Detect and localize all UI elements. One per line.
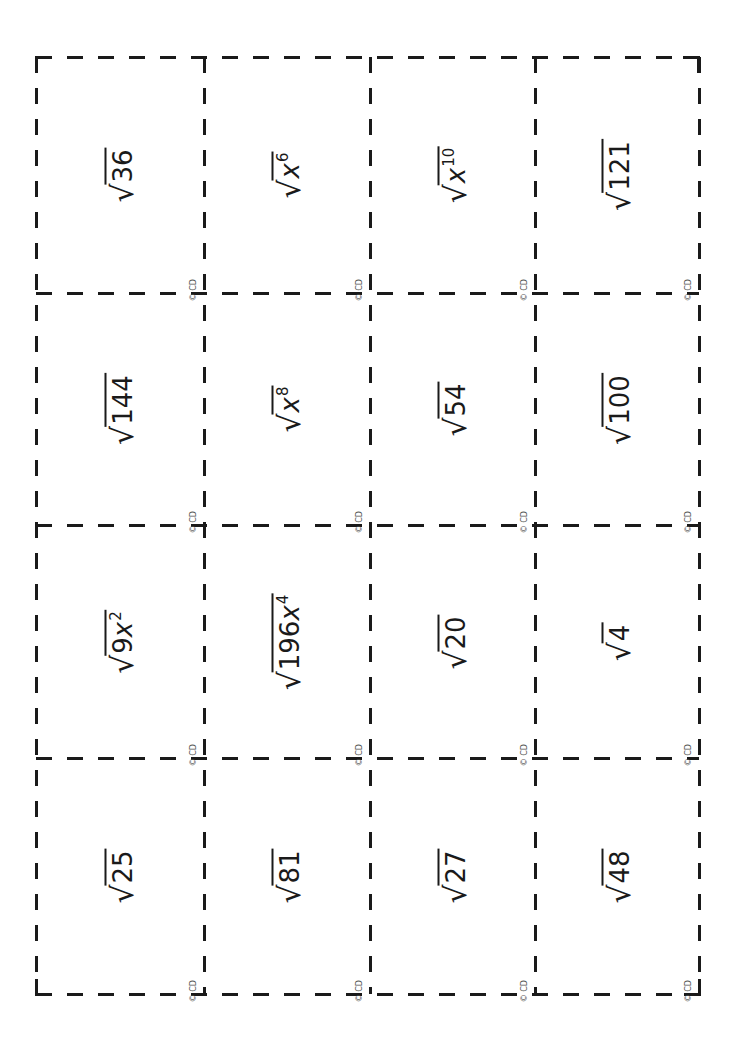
radical-expression: √ 121 <box>602 139 633 211</box>
radicand: 27 <box>437 848 468 885</box>
radicand-base: 25 <box>108 850 138 883</box>
radical-card[interactable]: √ 144 © CD <box>36 293 204 525</box>
radical-sign-icon: √ <box>605 642 635 661</box>
radicand: 20 <box>437 614 468 651</box>
radical-expression: √ 81 <box>272 848 303 903</box>
radical-card[interactable]: √ 27 © CD <box>370 758 535 994</box>
radical-card[interactable]: √ 81 © CD <box>204 758 370 994</box>
radicand: 196x4 <box>272 593 303 672</box>
radical-card[interactable]: √ x10 © CD <box>370 57 535 293</box>
radical-expression: √ x6 <box>272 151 303 198</box>
variable-x: x <box>275 397 305 412</box>
radicand-base: 48 <box>605 850 635 883</box>
card-sheet: √ 36 © CD √ x6 © CD √ x10 © CD √ 121 © C… <box>36 57 699 994</box>
radical-expression: √ 27 <box>437 848 468 903</box>
radical-sign-icon: √ <box>440 184 470 203</box>
radicand-base: 144 <box>108 375 138 425</box>
radicand-base: 36 <box>108 149 138 182</box>
radicand: 48 <box>602 848 633 885</box>
copyright-mark: © CD <box>520 980 529 1002</box>
radical-sign-icon: √ <box>275 413 305 432</box>
radicand: 100 <box>602 373 633 427</box>
radical-expression: √ 4 <box>602 622 633 661</box>
radicand: x10 <box>437 147 468 185</box>
radical-sign-icon: √ <box>440 650 470 669</box>
radicand: 25 <box>105 848 136 885</box>
radical-card[interactable]: √ 54 © CD <box>370 293 535 525</box>
radical-expression: √ 20 <box>437 614 468 669</box>
radicand-base: 196x <box>275 605 305 670</box>
radical-expression: √ x10 <box>437 147 468 204</box>
radical-expression: √ 48 <box>602 848 633 903</box>
radicand-base: 27 <box>440 850 470 883</box>
radical-expression: √ 100 <box>602 373 633 445</box>
radical-sign-icon: √ <box>275 884 305 903</box>
radicand: 144 <box>105 373 136 427</box>
radical-expression: √ 36 <box>105 147 136 202</box>
radicand-exponent: 10 <box>439 148 457 167</box>
radicand-base: x <box>275 163 305 178</box>
copyright-mark: © CD <box>684 980 693 1002</box>
radical-card[interactable]: √ 48 © CD <box>535 758 699 994</box>
radical-sign-icon: √ <box>440 884 470 903</box>
radical-sign-icon: √ <box>275 179 305 198</box>
radical-sign-icon: √ <box>108 183 138 202</box>
radical-card[interactable]: √ 121 © CD <box>535 57 699 293</box>
radicand: x6 <box>272 151 303 180</box>
radical-expression: √ 9x2 <box>105 610 136 674</box>
copyright-mark: © CD <box>189 980 198 1002</box>
radicand-exponent: 6 <box>274 152 292 162</box>
variable-x: x <box>275 163 305 178</box>
radical-card[interactable]: √ 20 © CD <box>370 525 535 758</box>
radical-sign-icon: √ <box>605 426 635 445</box>
radicand-base: x <box>440 168 470 183</box>
variable-x: x <box>440 168 470 183</box>
radicand-base: 20 <box>440 616 470 649</box>
radical-card[interactable]: √ 36 © CD <box>36 57 204 293</box>
radical-expression: √ x8 <box>272 385 303 432</box>
radical-card[interactable]: √ x8 © CD <box>204 293 370 525</box>
radicand-base: 4 <box>605 624 635 641</box>
radicand: 121 <box>602 139 633 193</box>
radical-card[interactable]: √ 9x2 © CD <box>36 525 204 758</box>
radicand-base: 100 <box>605 375 635 425</box>
radical-sign-icon: √ <box>605 192 635 211</box>
radical-card[interactable]: √ 4 © CD <box>535 525 699 758</box>
radical-sign-icon: √ <box>440 417 470 436</box>
radicand-exponent: 2 <box>107 611 125 621</box>
radicand: 9x2 <box>105 610 136 655</box>
radical-card[interactable]: √ 196x4 © CD <box>204 525 370 758</box>
variable-x: x <box>108 621 138 636</box>
radical-sign-icon: √ <box>605 884 635 903</box>
radicand: 36 <box>105 147 136 184</box>
radical-expression: √ 144 <box>105 373 136 445</box>
radicand: 4 <box>602 622 633 643</box>
radical-sign-icon: √ <box>108 426 138 445</box>
radicand-base: 81 <box>275 850 305 883</box>
radical-sign-icon: √ <box>108 884 138 903</box>
variable-x: x <box>275 605 305 620</box>
copyright-mark: © CD <box>355 980 364 1002</box>
radicand-exponent: 4 <box>274 594 292 604</box>
radicand: 54 <box>437 381 468 418</box>
radical-card[interactable]: √ 100 © CD <box>535 293 699 525</box>
radicand-base: 54 <box>440 383 470 416</box>
radicand-base: 121 <box>605 141 635 191</box>
radical-card[interactable]: √ 25 © CD <box>36 758 204 994</box>
radicand-exponent: 8 <box>274 386 292 396</box>
radicand: 81 <box>272 848 303 885</box>
radicand-base: 9x <box>108 621 138 653</box>
radical-sign-icon: √ <box>275 671 305 690</box>
radicand-base: x <box>275 397 305 412</box>
radical-expression: √ 54 <box>437 381 468 436</box>
radical-card[interactable]: √ x6 © CD <box>204 57 370 293</box>
radicand: x8 <box>272 385 303 414</box>
radical-sign-icon: √ <box>108 654 138 673</box>
radical-expression: √ 25 <box>105 848 136 903</box>
radical-expression: √ 196x4 <box>272 593 303 690</box>
